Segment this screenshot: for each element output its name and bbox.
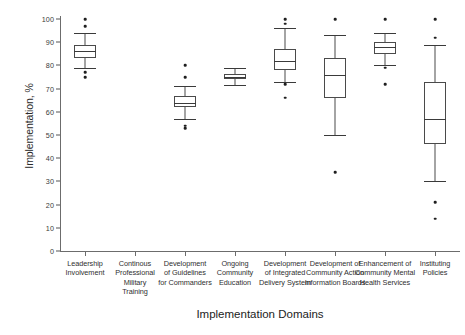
upper-whisker-line [335,35,336,58]
x-axis-tick-mark [435,252,436,256]
lower-whisker-cap [324,135,346,136]
lower-whisker-line [335,98,336,135]
upper-whisker-cap [174,86,196,87]
upper-whisker-cap [424,45,446,46]
outlier-point [434,36,437,39]
box-iqr-rect [424,82,446,145]
outlier-point [384,18,387,21]
outlier-point [334,18,337,21]
upper-whisker-cap [324,35,346,36]
outlier-point [334,171,337,174]
upper-whisker-line [385,33,386,42]
upper-whisker-cap [274,28,296,29]
median-line [374,47,396,48]
lower-whisker-cap [74,68,96,69]
lower-whisker-cap [224,85,246,86]
x-axis-tick-mark [185,252,186,256]
upper-whisker-cap [74,33,96,34]
median-line [174,103,196,104]
x-axis-category-label-line: Training [97,287,173,296]
x-axis-tick-mark [135,252,136,256]
outlier-point [184,76,187,79]
x-axis-tick-mark [335,252,336,256]
lower-whisker-cap [174,119,196,120]
x-axis-category-label: InstitutingPolicies [397,259,465,278]
outlier-point [84,18,87,21]
outlier-point [284,97,287,100]
median-line [274,61,296,62]
outlier-point [384,66,387,69]
x-axis-category-label-line: Instituting [397,259,465,268]
x-axis-tick-mark [235,252,236,256]
box-iqr-rect [374,42,396,54]
outlier-point [84,25,87,28]
outlier-point [284,83,287,86]
outlier-point [434,18,437,21]
median-line [324,75,346,76]
upper-whisker-cap [224,68,246,69]
lower-whisker-line [435,144,436,181]
outlier-point [284,22,287,25]
upper-whisker-line [85,33,86,45]
outlier-point [434,217,437,220]
outlier-point [184,127,187,130]
x-axis-tick-mark [385,252,386,256]
lower-whisker-line [285,70,286,82]
upper-whisker-cap [374,33,396,34]
median-line [224,77,246,78]
outlier-point [184,64,187,67]
lower-whisker-line [85,58,86,67]
outlier-point [84,76,87,79]
boxplot-figure: Implementation, % 0102030405060708090100… [0,0,465,335]
outlier-point [384,83,387,86]
x-axis-title: Implementation Domains [60,308,460,320]
x-axis-category-label-line: Health Services [347,278,423,287]
x-axis-tick-mark [285,252,286,256]
upper-whisker-line [185,86,186,95]
box-iqr-rect [274,49,296,70]
x-axis-line [60,251,460,252]
lower-whisker-line [385,54,386,66]
lower-whisker-line [185,107,186,119]
upper-whisker-line [435,45,436,82]
upper-whisker-line [285,28,286,49]
median-line [74,51,96,52]
median-line [424,119,446,120]
outlier-point [434,201,437,204]
x-axis-tick-mark [85,252,86,256]
outlier-point [284,18,287,21]
box-iqr-rect [174,96,196,108]
outlier-point [84,71,87,74]
lower-whisker-cap [424,181,446,182]
box-iqr-rect [324,58,346,97]
x-axis-category-label-line: Policies [397,268,465,277]
